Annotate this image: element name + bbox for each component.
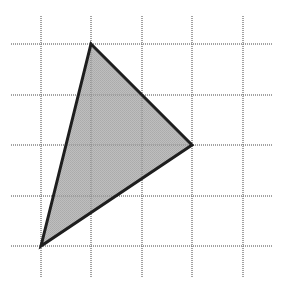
triangle-grid-diagram	[0, 0, 292, 291]
